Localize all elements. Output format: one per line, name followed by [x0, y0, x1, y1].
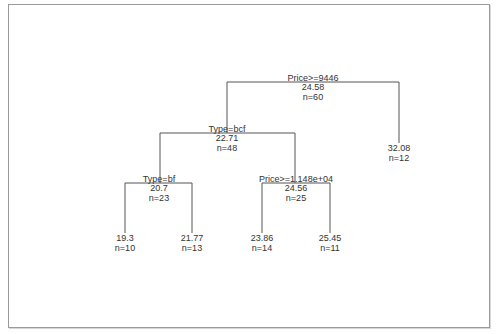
leaf-n9-value: 21.77 — [181, 233, 204, 243]
leaf-n10-count: n=14 — [252, 243, 272, 253]
node-n2-value: 22.71 — [216, 133, 239, 143]
leaf-n9-count: n=13 — [182, 243, 202, 253]
leaf-n3-count: n=12 — [389, 153, 409, 163]
leaf-n11-value: 25.45 — [319, 233, 342, 243]
node-n2-count: n=48 — [217, 143, 237, 153]
node-n4-count: n=23 — [149, 193, 169, 203]
leaf-n8-count: n=10 — [115, 243, 135, 253]
node-root-count: n=60 — [303, 92, 323, 102]
leaf-n11-count: n=11 — [320, 243, 340, 253]
leaf-n10-value: 23.86 — [251, 233, 274, 243]
tree-edges — [0, 0, 496, 334]
node-n4-value: 20.7 — [150, 183, 168, 193]
node-n5-value: 24.56 — [285, 183, 308, 193]
node-n5-count: n=25 — [286, 193, 306, 203]
leaf-n8-value: 19.3 — [116, 233, 134, 243]
leaf-n3-value: 32.08 — [388, 143, 411, 153]
node-root-value: 24.58 — [302, 82, 325, 92]
